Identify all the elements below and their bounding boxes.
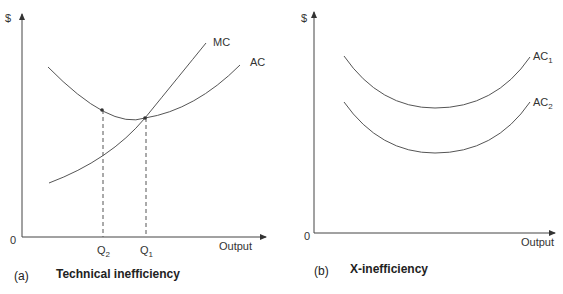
- mc-label: MC: [213, 36, 230, 48]
- ac1-label: AC1: [533, 50, 553, 65]
- panel-a-title: Technical inefficiency: [56, 267, 180, 281]
- ac-curve: [48, 65, 240, 120]
- ac1-curve: [344, 56, 530, 108]
- panel-b: $ 0 Output AC1 AC2 (b) X-inefficiency: [301, 12, 555, 278]
- q1-label: Q1: [140, 244, 154, 259]
- origin-label: 0: [10, 234, 16, 246]
- ac2-label: AC2: [533, 96, 553, 111]
- mc-curve: [49, 43, 206, 183]
- panel-a: $ 0 Output MC AC Q2 Q1 (a) Technical ine…: [5, 12, 266, 283]
- panel-b-title: X-inefficiency: [350, 262, 428, 276]
- ac2-curve: [344, 102, 530, 153]
- y-axis-label: $: [301, 12, 307, 24]
- figure: $ 0 Output MC AC Q2 Q1 (a) Technical ine…: [0, 0, 563, 294]
- x-axis-label: Output: [521, 236, 554, 248]
- panel-a-tag: (a): [14, 269, 29, 283]
- y-axis-label: $: [5, 12, 11, 24]
- panel-b-tag: (b): [314, 264, 329, 278]
- ac-label: AC: [250, 56, 265, 68]
- q2-point: [100, 108, 104, 112]
- q2-label: Q2: [97, 244, 111, 259]
- x-axis-label: Output: [219, 240, 252, 252]
- origin-label: 0: [304, 230, 310, 242]
- q1-point: [143, 116, 147, 120]
